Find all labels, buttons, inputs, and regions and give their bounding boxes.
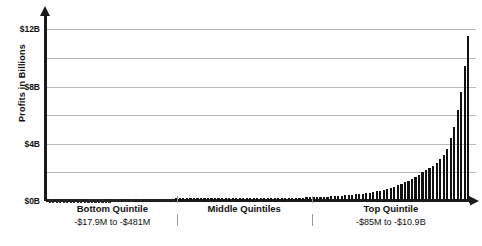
- bar: [260, 198, 262, 199]
- bar: [284, 198, 286, 199]
- bar: [453, 127, 455, 199]
- y-tick-label: $12B: [20, 24, 40, 34]
- bar: [193, 198, 195, 199]
- bar: [302, 198, 304, 199]
- bar: [390, 188, 392, 199]
- segment-label-text: Middle Quintiles: [203, 203, 286, 214]
- bar: [200, 198, 202, 199]
- bar: [457, 110, 459, 199]
- bar: [421, 172, 423, 199]
- bar: [295, 198, 297, 199]
- bar: [369, 193, 371, 200]
- bar: [323, 197, 325, 199]
- bar: [154, 199, 156, 201]
- bar: [414, 177, 416, 199]
- bar: [291, 198, 293, 199]
- bar: [182, 198, 184, 199]
- bar: [362, 194, 364, 200]
- bar: [432, 166, 434, 199]
- bar: [277, 198, 279, 199]
- bar: [214, 198, 216, 199]
- x-axis-segment: Bottom Quintile-$17.9M to -$481M: [48, 202, 177, 244]
- bar: [443, 155, 445, 199]
- bar: [379, 191, 381, 199]
- bar: [316, 197, 318, 199]
- bar: [326, 197, 328, 199]
- bar: [221, 198, 223, 199]
- bar: [253, 198, 255, 199]
- bar: [305, 197, 307, 199]
- chart-container: Profits in Billions $0B$4B$8B$12B Bottom…: [0, 0, 482, 246]
- bar: [298, 198, 300, 199]
- bar: [344, 195, 346, 199]
- segment-sublabel: -$85M to -$10.9B: [312, 217, 470, 227]
- bar: [376, 191, 378, 199]
- bar: [439, 159, 441, 199]
- bar: [460, 92, 462, 199]
- bar: [330, 196, 332, 199]
- bar: [393, 187, 395, 199]
- bar: [151, 199, 153, 201]
- bar: [464, 66, 466, 199]
- segment-sublabel: -$17.9M to -$481M: [48, 217, 177, 227]
- bar: [467, 36, 469, 199]
- bar: [386, 189, 388, 199]
- bar: [232, 198, 234, 199]
- bar: [217, 198, 219, 199]
- bar: [144, 199, 146, 201]
- bar: [309, 197, 311, 199]
- bar: [365, 193, 367, 199]
- x-axis-segment: Top Quintile-$85M to -$10.9B: [312, 202, 470, 244]
- bar: [270, 198, 272, 199]
- bar: [168, 199, 170, 201]
- bar: [407, 181, 409, 199]
- segment-label: Top Quintile: [312, 203, 470, 214]
- bar: [172, 199, 174, 201]
- segment-label-text: Bottom Quintile: [72, 203, 153, 214]
- bar: [450, 138, 452, 199]
- bar: [242, 198, 244, 199]
- segment-label-text: Top Quintile: [359, 203, 424, 214]
- bar: [418, 175, 420, 199]
- bar: [133, 199, 135, 201]
- bar: [225, 198, 227, 199]
- bar: [436, 163, 438, 199]
- x-axis-segments: Bottom Quintile-$17.9M to -$481MMiddle Q…: [0, 202, 482, 246]
- bar: [210, 198, 212, 199]
- bar: [397, 185, 399, 199]
- bar: [235, 198, 237, 199]
- bar: [355, 194, 357, 199]
- bar: [207, 198, 209, 199]
- bar: [358, 194, 360, 199]
- bar: [400, 184, 402, 199]
- segment-label: Bottom Quintile: [48, 203, 177, 214]
- bar: [161, 199, 163, 201]
- bar: [411, 179, 413, 199]
- bar: [246, 198, 248, 199]
- bar: [348, 195, 350, 199]
- bar: [446, 149, 448, 199]
- bar: [288, 198, 290, 199]
- bar: [189, 198, 191, 199]
- bar: [256, 198, 258, 199]
- bar: [140, 199, 142, 201]
- bar: [281, 198, 283, 199]
- bar: [334, 196, 336, 199]
- bar: [196, 198, 198, 199]
- y-axis-line: [44, 14, 47, 201]
- bar: [186, 198, 188, 199]
- segment-label: Middle Quintiles: [177, 203, 312, 214]
- bar: [203, 198, 205, 199]
- bar: [249, 198, 251, 199]
- bar: [137, 199, 139, 201]
- bar: [383, 190, 385, 199]
- y-tick-label: $8B: [24, 82, 40, 92]
- bar-series: [48, 18, 470, 199]
- bar: [147, 199, 149, 201]
- bar: [351, 195, 353, 199]
- bar: [425, 170, 427, 199]
- bar: [239, 198, 241, 199]
- bar: [267, 198, 269, 199]
- bar: [337, 196, 339, 199]
- y-axis-arrow-icon: [40, 6, 50, 16]
